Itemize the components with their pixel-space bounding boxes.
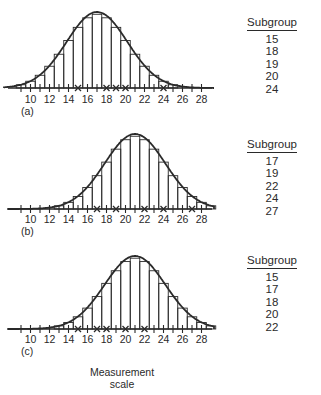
chart-panel-b: 10121416182022242628(b) <box>7 134 215 237</box>
x-tick-label: 22 <box>139 333 151 345</box>
x-tick-label: 26 <box>177 93 189 105</box>
x-tick-label: 20 <box>120 333 132 345</box>
legend-value: 18 <box>236 296 308 309</box>
histogram-bar <box>83 18 93 88</box>
x-tick-label: 10 <box>25 93 37 105</box>
x-tick-label: 12 <box>44 93 56 105</box>
panel-label: (b) <box>21 225 34 237</box>
x-axis-caption: Measurement scale <box>82 366 162 390</box>
x-tick-label: 14 <box>63 333 75 345</box>
x-tick-label: 16 <box>82 93 94 105</box>
x-tick-label: 20 <box>120 93 132 105</box>
histogram-bars <box>16 14 178 88</box>
histogram-bar <box>140 262 150 329</box>
panel-label: (a) <box>21 105 34 117</box>
histogram-bar <box>102 18 112 88</box>
legend-panel-c: Subgroup 15 17 18 20 22 <box>236 254 308 334</box>
histogram-bar <box>159 283 169 329</box>
x-tick-label: 26 <box>177 213 189 225</box>
histogram-bar <box>149 271 159 329</box>
x-tick-label: 18 <box>101 333 113 345</box>
x-tick-label: 10 <box>25 333 37 345</box>
legend-value: 24 <box>236 192 308 205</box>
legend-value: 20 <box>236 70 308 83</box>
histogram-bar <box>149 149 159 209</box>
legend-value: 19 <box>236 58 308 71</box>
x-tick-label: 28 <box>196 213 208 225</box>
legend-title: Subgroup <box>247 16 297 31</box>
x-tick-label: 12 <box>44 213 56 225</box>
caption-line-1: Measurement <box>82 366 162 378</box>
x-tick-label: 26 <box>177 333 189 345</box>
histogram-bar <box>130 258 140 329</box>
legend-value: 24 <box>236 83 308 96</box>
histogram-bar <box>111 27 121 88</box>
legend-value: 17 <box>236 283 308 296</box>
histogram-bar <box>121 262 131 329</box>
x-tick-label: 24 <box>158 333 170 345</box>
histogram-bars <box>54 136 216 209</box>
histogram-bar <box>121 40 131 88</box>
legend-panel-a: Subgroup 15 18 19 20 24 <box>236 16 308 96</box>
histogram-bar <box>111 271 121 329</box>
x-tick-label: 28 <box>196 333 208 345</box>
histogram-bar <box>130 136 140 209</box>
legend-value: 22 <box>236 321 308 334</box>
distribution-curve <box>7 256 214 329</box>
histogram-bar <box>140 140 150 209</box>
x-tick-label: 22 <box>139 213 151 225</box>
histogram-bar <box>159 162 169 209</box>
legend-value: 18 <box>236 45 308 58</box>
x-tick-label: 16 <box>82 333 94 345</box>
x-tick-label: 14 <box>63 93 75 105</box>
distribution-curve <box>7 134 214 209</box>
histogram-bar <box>102 162 112 209</box>
x-tick-label: 12 <box>44 333 56 345</box>
legend-panel-b: Subgroup 17 19 22 24 27 <box>236 138 308 218</box>
histogram-bar <box>111 149 121 209</box>
x-tick-label: 28 <box>196 93 208 105</box>
x-tick-label: 14 <box>63 213 75 225</box>
histogram-bar <box>92 14 102 88</box>
chart-panel-c: 10121416182022242628(c) <box>7 256 215 357</box>
x-tick-label: 10 <box>25 213 37 225</box>
legend-title: Subgroup <box>247 254 297 269</box>
x-tick-label: 16 <box>82 213 94 225</box>
x-tick-label: 18 <box>101 93 113 105</box>
legend-value: 22 <box>236 180 308 193</box>
caption-line-2: scale <box>82 378 162 390</box>
legend-value: 20 <box>236 308 308 321</box>
legend-title: Subgroup <box>247 138 297 153</box>
histogram-bar <box>121 140 131 209</box>
histogram-bar <box>102 283 112 329</box>
panel-label: (c) <box>21 345 33 357</box>
histogram-bar <box>64 40 74 88</box>
chart-panel-a: 10121416182022242628(a) <box>4 12 214 117</box>
x-tick-label: 22 <box>139 93 151 105</box>
histogram-bar <box>73 27 83 88</box>
legend-value: 15 <box>236 271 308 284</box>
legend-value: 27 <box>236 205 308 218</box>
histogram-bars <box>54 258 216 329</box>
x-tick-label: 24 <box>158 213 170 225</box>
x-tick-label: 24 <box>158 93 170 105</box>
legend-value: 17 <box>236 155 308 168</box>
x-tick-label: 20 <box>120 213 132 225</box>
x-tick-label: 18 <box>101 213 113 225</box>
legend-value: 15 <box>236 33 308 46</box>
legend-value: 19 <box>236 167 308 180</box>
